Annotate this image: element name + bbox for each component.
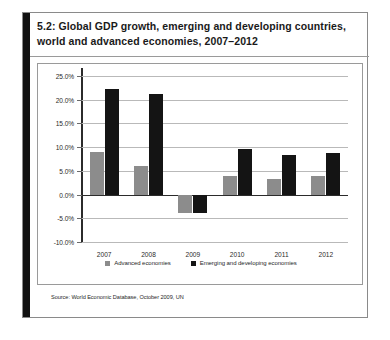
gridline — [82, 171, 348, 172]
legend-swatch-icon — [105, 261, 110, 266]
zero-line — [82, 195, 348, 196]
figure-spine — [23, 13, 30, 317]
bar — [326, 153, 340, 195]
bar — [105, 89, 119, 195]
figure-caption: 5.2: Global GDP growth, emerging and dev… — [37, 19, 355, 49]
x-axis-label: 2010 — [230, 251, 245, 258]
gridline — [82, 218, 348, 219]
y-axis-label: -5.0% — [57, 215, 74, 222]
y-axis-tick — [77, 218, 82, 219]
y-axis-label: 0.0% — [59, 191, 74, 198]
y-axis-tick — [77, 100, 82, 101]
y-axis-label: 25.0% — [56, 73, 74, 80]
y-axis-line — [81, 68, 83, 242]
bar — [149, 94, 163, 195]
y-axis-tick — [77, 147, 82, 148]
bar — [267, 179, 281, 195]
x-axis-label: 2008 — [141, 251, 156, 258]
bar — [90, 152, 104, 194]
y-axis-label: -10.0% — [54, 239, 74, 246]
gridline — [82, 242, 348, 243]
y-axis-tick — [77, 76, 82, 77]
legend-item: Emerging and developing economies — [191, 260, 297, 266]
bar — [238, 149, 252, 195]
x-axis-label: 2009 — [185, 251, 200, 258]
bar — [282, 155, 296, 194]
bar — [311, 176, 325, 194]
bar — [193, 195, 207, 213]
bar — [223, 176, 237, 195]
chart-legend: Advanced economiesEmerging and developin… — [38, 260, 364, 266]
y-axis-label: 10.0% — [56, 144, 74, 151]
y-axis-label: 20.0% — [56, 96, 74, 103]
legend-item: Advanced economies — [105, 260, 170, 266]
gridline — [82, 100, 348, 101]
y-axis-tick — [77, 195, 82, 196]
legend-label: Advanced economies — [114, 260, 170, 266]
y-axis-label: 15.0% — [56, 120, 74, 127]
bar — [134, 166, 148, 194]
figure-container: 5.2: Global GDP growth, emerging and dev… — [22, 12, 368, 318]
x-axis-label: 2007 — [97, 251, 112, 258]
gridline — [82, 123, 348, 124]
legend-swatch-icon — [191, 261, 196, 266]
y-axis-tick — [77, 242, 82, 243]
x-axis-label: 2011 — [274, 251, 288, 258]
y-axis-tick — [77, 123, 82, 124]
y-axis-tick — [77, 171, 82, 172]
chart-panel: 25.0%20.0%15.0%10.0%5.0%0.0%-5.0%-10.0% … — [37, 63, 363, 285]
caption-divider — [30, 56, 369, 57]
legend-label: Emerging and developing economies — [200, 260, 297, 266]
y-axis-label: 5.0% — [59, 167, 74, 174]
bar — [178, 195, 192, 213]
gridline — [82, 76, 348, 77]
plot-area: 25.0%20.0%15.0%10.0%5.0%0.0%-5.0%-10.0% … — [82, 76, 348, 242]
x-axis-label: 2012 — [318, 251, 333, 258]
source-note: Source: World Economic Database, October… — [51, 294, 184, 300]
gridline — [82, 147, 348, 148]
